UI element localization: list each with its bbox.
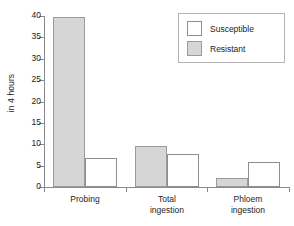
- x-tick-mark: [207, 187, 208, 192]
- legend-item-susceptible: Susceptible: [187, 21, 254, 36]
- legend-swatch-icon-resistant: [187, 41, 202, 56]
- y-tick-label: 10: [32, 138, 41, 149]
- x-category-label: Phloem ingestion: [207, 194, 289, 216]
- bar-resistant-1: [135, 146, 167, 187]
- bar-susceptible-2: [248, 162, 280, 187]
- y-axis-title: in 4 hours: [6, 58, 16, 128]
- bar-susceptible-1: [167, 154, 199, 187]
- y-tick-label: 0: [36, 181, 41, 192]
- legend-label-resistant: Resistant: [210, 44, 245, 54]
- x-axis-line: [44, 187, 289, 188]
- bar-susceptible-0: [85, 158, 117, 187]
- x-category-label: Probing: [44, 194, 126, 205]
- x-tick-mark: [289, 187, 290, 192]
- y-tick-label: 30: [32, 53, 41, 64]
- legend-item-resistant: Resistant: [187, 41, 245, 56]
- y-tick-label: 5: [36, 160, 41, 171]
- x-tick-mark: [44, 187, 45, 192]
- y-tick-label: 25: [32, 74, 41, 85]
- y-axis-line: [44, 16, 45, 188]
- bar-chart: in 4 hours 0510152025303540 ProbingTotal…: [0, 0, 294, 226]
- bar-resistant-0: [53, 17, 85, 187]
- legend: Susceptible Resistant: [178, 13, 285, 63]
- bar-resistant-2: [216, 178, 248, 187]
- y-tick-label: 35: [32, 31, 41, 42]
- x-category-label: Total ingestion: [126, 194, 208, 216]
- x-tick-mark: [126, 187, 127, 192]
- legend-swatch-icon-susceptible: [187, 21, 202, 36]
- y-tick-label: 40: [32, 10, 41, 21]
- y-tick-label: 15: [32, 117, 41, 128]
- legend-label-susceptible: Susceptible: [210, 24, 254, 34]
- y-tick-label: 20: [32, 96, 41, 107]
